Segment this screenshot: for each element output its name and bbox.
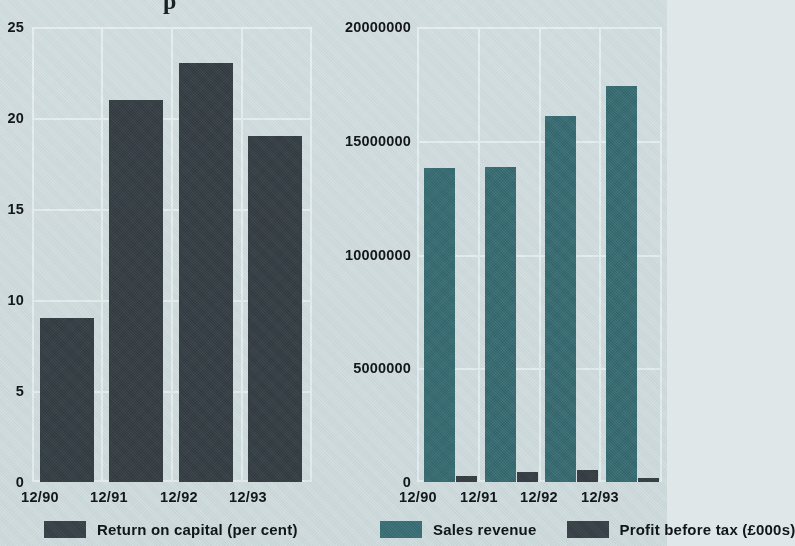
bar-profit-12-91: [517, 472, 538, 482]
xtick-left-12-91: 12/91: [74, 489, 144, 505]
ytick-right-0: 0: [315, 474, 411, 490]
bar-return-12-93: [248, 136, 302, 482]
clipped-title-fragment: p: [163, 0, 176, 15]
plot-area-left: [32, 27, 312, 482]
xtick-left-12-92: 12/92: [144, 489, 214, 505]
ytick-left-0: 0: [0, 474, 24, 490]
plot-area-right: [417, 27, 662, 482]
ytick-left-5: 5: [0, 383, 24, 399]
ytick-left-15: 15: [0, 201, 24, 217]
bar-sales-12-90: [424, 168, 455, 482]
legend-item-return-on-capital: Return on capital (per cent): [44, 521, 298, 538]
ytick-left-20: 20: [0, 110, 24, 126]
vgrid-2: [171, 27, 173, 482]
bar-profit-12-93: [638, 478, 659, 482]
ytick-right-10000000: 10000000: [315, 247, 411, 263]
legend-swatch-sales-revenue: [380, 521, 422, 538]
bar-sales-12-92: [545, 116, 576, 482]
vgrid-right: [310, 27, 312, 482]
legend-left: Return on capital (per cent): [44, 521, 298, 538]
ytick-left-10: 10: [0, 292, 24, 308]
chart-sales-and-profit: 20000000 15000000 10000000 5000000 0 12/…: [333, 0, 667, 546]
bar-sales-12-91: [485, 167, 516, 482]
vgrid-left: [32, 27, 34, 482]
legend-swatch-profit-before-tax: [567, 521, 609, 538]
ytick-right-20000000: 20000000: [315, 19, 411, 35]
xtick-left-12-90: 12/90: [5, 489, 75, 505]
vgrid-right-2: [539, 27, 541, 482]
bar-profit-12-92: [577, 470, 598, 482]
xtick-left-12-93: 12/93: [213, 489, 283, 505]
legend-label-sales-revenue: Sales revenue: [433, 521, 537, 538]
bar-return-12-91: [109, 100, 163, 482]
vgrid-1: [101, 27, 103, 482]
bar-return-12-90: [40, 318, 94, 482]
bar-profit-12-90: [456, 476, 477, 482]
vgrid-right-left: [417, 27, 419, 482]
vgrid-right-1: [478, 27, 480, 482]
vgrid-right-3: [599, 27, 601, 482]
ytick-right-15000000: 15000000: [315, 133, 411, 149]
legend-item-sales-revenue: Sales revenue: [380, 521, 537, 538]
xtick-right-12-92: 12/92: [508, 489, 570, 505]
bar-sales-12-93: [606, 86, 637, 482]
legend-swatch-return-on-capital: [44, 521, 86, 538]
vgrid-3: [241, 27, 243, 482]
bar-return-12-92: [179, 63, 233, 482]
xtick-right-12-90: 12/90: [387, 489, 449, 505]
chart-return-on-capital: 25 20 15 10 5 0 12/90 12/91 12/92 12/93 …: [0, 0, 334, 546]
xtick-right-12-93: 12/93: [569, 489, 631, 505]
xtick-right-12-91: 12/91: [448, 489, 510, 505]
legend-right: Sales revenue Profit before tax (£000s): [380, 521, 795, 538]
ytick-right-5000000: 5000000: [315, 360, 411, 376]
legend-label-profit-before-tax: Profit before tax (£000s): [620, 521, 795, 538]
vgrid-right-right: [660, 27, 662, 482]
legend-item-profit-before-tax: Profit before tax (£000s): [567, 521, 795, 538]
legend-label-return-on-capital: Return on capital (per cent): [97, 521, 298, 538]
ytick-left-25: 25: [0, 19, 24, 35]
